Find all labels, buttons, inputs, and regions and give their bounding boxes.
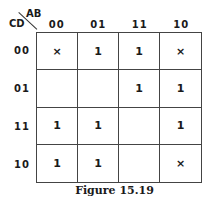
column-header: 00	[36, 19, 78, 30]
column-header: 01	[78, 19, 120, 30]
kmap-cell: 1	[78, 145, 119, 182]
kmap-grid: × 1 1 × 1 1 1 1 1 1 1 ×	[36, 32, 202, 183]
row-header: 10	[14, 159, 34, 170]
kmap-cell: ×	[160, 33, 201, 70]
column-header: 10	[161, 19, 203, 30]
column-variable-label: AB	[26, 8, 41, 19]
figure-caption: Figure 15.19	[0, 184, 217, 197]
kmap-cell	[37, 70, 78, 107]
row-header: 11	[14, 121, 34, 132]
kmap-cell: 1	[37, 145, 78, 182]
kmap-cell: ×	[160, 145, 201, 182]
kmap-cell	[119, 145, 160, 182]
kmap-cell: 1	[37, 108, 78, 145]
kmap-cell: 1	[160, 108, 201, 145]
column-header: 11	[119, 19, 161, 30]
kmap-cell: 1	[119, 33, 160, 70]
row-header: 00	[14, 45, 34, 56]
kmap-cell: 1	[78, 108, 119, 145]
row-header: 01	[14, 83, 34, 94]
kmap-cell: ×	[37, 33, 78, 70]
kmap-cell: 1	[78, 33, 119, 70]
kmap-cell	[78, 70, 119, 107]
kmap-cell: 1	[160, 70, 201, 107]
kmap-cell: 1	[119, 70, 160, 107]
kmap-cell	[119, 108, 160, 145]
row-variable-label: CD	[9, 18, 25, 29]
